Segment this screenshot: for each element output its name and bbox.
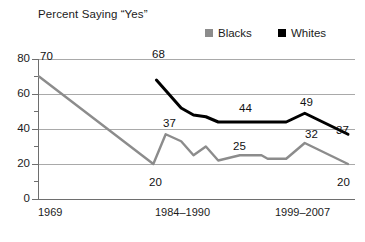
point-label-whites-49: 49 — [300, 96, 313, 108]
chart-container: Percent Saying “Yes” Blacks Whites 80 60… — [0, 0, 365, 242]
point-label-whites-44: 44 — [239, 102, 252, 114]
x-tick-label-1984-1990: 1984–1990 — [155, 206, 210, 218]
line-series-whites — [156, 80, 348, 134]
point-label-blacks-20-end: 20 — [337, 176, 350, 188]
line-series-blacks — [39, 77, 348, 165]
point-label-blacks-32: 32 — [305, 128, 318, 140]
point-label-blacks-25: 25 — [233, 140, 246, 152]
point-label-blacks-20-low: 20 — [149, 176, 162, 188]
point-label-whites-37: 37 — [336, 124, 349, 136]
x-tick-label-1999-2007: 1999–2007 — [275, 206, 330, 218]
point-label-blacks-37: 37 — [163, 117, 176, 129]
point-label-whites-68: 68 — [152, 48, 165, 60]
x-tick-label-1969: 1969 — [38, 206, 62, 218]
point-label-blacks-70: 70 — [40, 50, 53, 62]
